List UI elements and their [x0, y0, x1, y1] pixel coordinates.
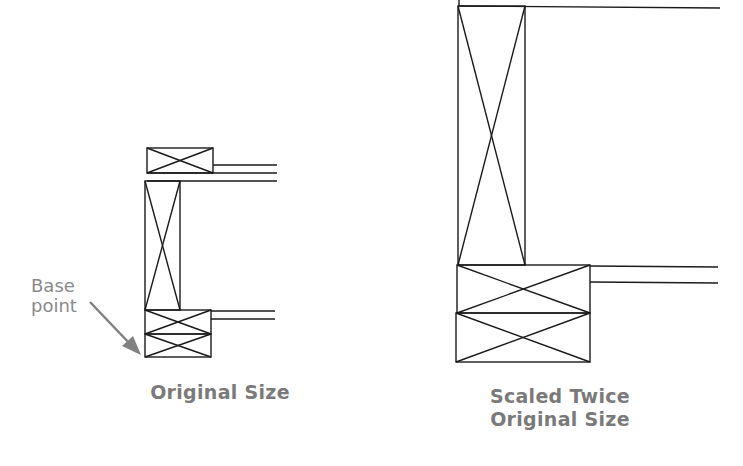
- base-point-arrow-icon: [90, 302, 141, 355]
- base-point-label-line2: point: [31, 296, 77, 316]
- base-point-label-line1: Base: [31, 276, 77, 296]
- caption-scaled-twice: Scaled Twice Original Size: [470, 385, 650, 431]
- caption-original-size: Original Size: [130, 381, 310, 404]
- base-point-label: Base point: [31, 276, 77, 316]
- scaled-twice-drawing: [456, 0, 720, 362]
- caption-scaled-line2: Original Size: [470, 408, 650, 431]
- caption-original-text: Original Size: [130, 381, 310, 404]
- original-size-drawing: [145, 148, 277, 357]
- caption-scaled-line1: Scaled Twice: [470, 385, 650, 408]
